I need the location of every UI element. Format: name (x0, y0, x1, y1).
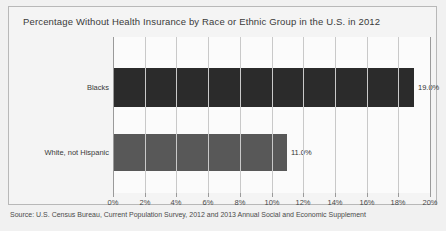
x-tick-label-12: 12% (295, 198, 310, 207)
x-tick-label-2: 2% (140, 198, 151, 207)
x-tick-label-20: 20% (422, 198, 437, 207)
tick-mark-0 (113, 193, 114, 197)
chart-title: Percentage Without Health Insurance by R… (23, 16, 380, 27)
gridline-16 (367, 37, 368, 193)
x-tick-label-0: 0% (108, 198, 119, 207)
tick-mark-16 (367, 193, 368, 197)
x-tick-label-14: 14% (327, 198, 342, 207)
category-axis-labels: Blacks White, not Hispanic (17, 37, 109, 193)
gridline-0 (113, 37, 114, 193)
tick-mark-14 (335, 193, 336, 197)
tick-mark-2 (145, 193, 146, 197)
source-note: Source: U.S. Census Bureau, Current Popu… (10, 211, 366, 218)
gridline-4 (176, 37, 177, 193)
x-tick-label-18: 18% (390, 198, 405, 207)
tick-mark-6 (208, 193, 209, 197)
x-tick-label-4: 4% (171, 198, 182, 207)
x-tick-label-10: 10% (264, 198, 279, 207)
gridline-8 (240, 37, 241, 193)
gridline-18 (398, 37, 399, 193)
bar-value-blacks: 19.0% (418, 83, 439, 92)
tick-mark-18 (398, 193, 399, 197)
gridline-6 (208, 37, 209, 193)
gridline-12 (303, 37, 304, 193)
bar-blacks (113, 68, 414, 107)
category-label-blacks: Blacks (87, 83, 109, 92)
tick-mark-4 (176, 193, 177, 197)
bar-white-not-hispanic (113, 134, 287, 171)
tick-mark-20 (430, 193, 431, 197)
x-tick-label-8: 8% (235, 198, 246, 207)
plot-area: 19.0% 11.0% 0%2%4%6%8%10%12%14%16%18%20% (113, 37, 430, 193)
category-label-white-not-hispanic: White, not Hispanic (44, 148, 109, 157)
gridline-10 (272, 37, 273, 193)
tick-mark-10 (272, 193, 273, 197)
gridline-2 (145, 37, 146, 193)
gridline-14 (335, 37, 336, 193)
chart-page: Percentage Without Health Insurance by R… (0, 0, 446, 231)
x-tick-label-6: 6% (203, 198, 214, 207)
x-tick-label-16: 16% (359, 198, 374, 207)
bar-value-white-not-hispanic: 11.0% (291, 148, 312, 157)
gridline-20 (430, 37, 431, 193)
tick-mark-12 (303, 193, 304, 197)
tick-mark-8 (240, 193, 241, 197)
chart-frame: Percentage Without Health Insurance by R… (8, 6, 437, 205)
